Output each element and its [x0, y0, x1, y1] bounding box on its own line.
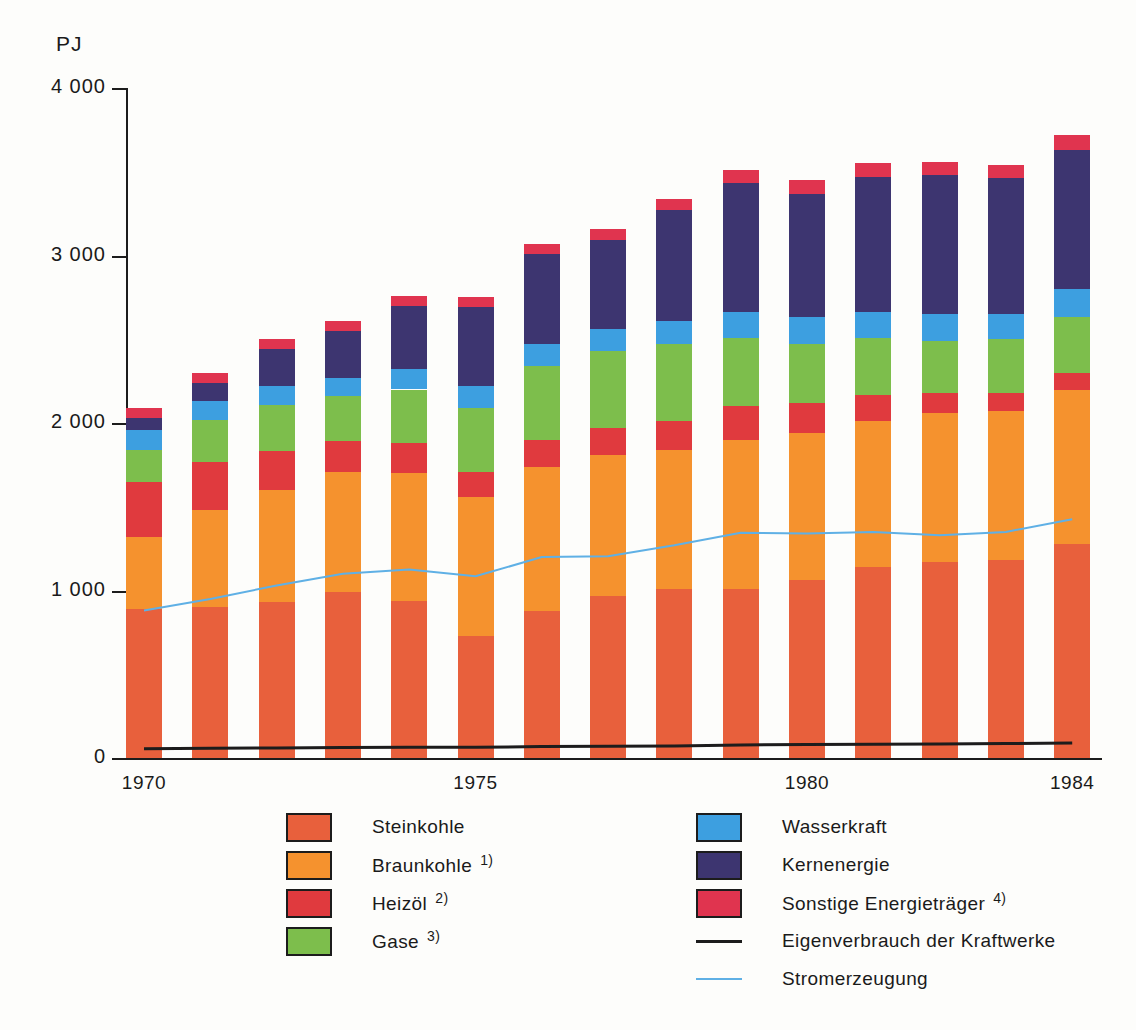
legend-item[interactable]: Eigenverbrauch der Kraftwerke — [696, 922, 1056, 960]
bar-segment — [458, 408, 494, 472]
bar-segment — [656, 210, 692, 321]
bar-segment — [789, 180, 825, 193]
bar-column — [524, 88, 560, 758]
bar-segment — [656, 589, 692, 758]
bar-column — [855, 88, 891, 758]
legend-label: Kernenergie — [782, 854, 890, 876]
bar-segment — [458, 307, 494, 386]
bar-column — [126, 88, 162, 758]
legend-color-swatch — [696, 813, 742, 842]
bar-segment — [325, 321, 361, 331]
bar-segment — [656, 450, 692, 589]
bar-segment — [988, 393, 1024, 411]
bar-segment — [458, 297, 494, 307]
bar-segment — [789, 194, 825, 318]
bar-column — [391, 88, 427, 758]
bar-segment — [259, 602, 295, 758]
bar-segment — [524, 611, 560, 758]
bar-segment — [126, 430, 162, 450]
bar-segment — [922, 393, 958, 413]
legend-color-swatch — [286, 813, 332, 842]
bar-segment — [524, 467, 560, 611]
legend-item[interactable]: Heizöl2) — [286, 884, 493, 922]
bar-segment — [723, 312, 759, 337]
bar-segment — [723, 406, 759, 440]
bar-segment — [590, 351, 626, 428]
bar-segment — [656, 199, 692, 211]
bar-segment — [922, 314, 958, 341]
bar-segment — [922, 341, 958, 393]
bar-segment — [855, 567, 891, 758]
bar-segment — [1054, 135, 1090, 150]
bar-segment — [458, 497, 494, 636]
legend-footnote-marker: 1) — [480, 852, 493, 868]
bar-segment — [391, 390, 427, 444]
y-tick-label: 3 000 — [20, 243, 106, 266]
bar-segment — [524, 440, 560, 467]
bar-segment — [855, 163, 891, 176]
bar-segment — [325, 472, 361, 593]
bar-segment — [855, 312, 891, 337]
bar-segment — [325, 396, 361, 441]
bar-segment — [1054, 373, 1090, 390]
bar-column — [259, 88, 295, 758]
bar-segment — [1054, 317, 1090, 372]
bar-segment — [325, 331, 361, 378]
legend-item[interactable]: Wasserkraft — [696, 808, 1056, 846]
bar-column — [458, 88, 494, 758]
bar-segment — [789, 317, 825, 344]
legend-item[interactable]: Kernenergie — [696, 846, 1056, 884]
bar-segment — [458, 472, 494, 497]
x-tick-label: 1975 — [431, 772, 521, 794]
bar-segment — [988, 560, 1024, 758]
bar-segment — [524, 244, 560, 254]
bar-segment — [855, 421, 891, 567]
bar-segment — [458, 636, 494, 758]
bar-segment — [988, 314, 1024, 339]
bar-segment — [325, 378, 361, 396]
legend-item[interactable]: Braunkohle1) — [286, 846, 493, 884]
bar-segment — [391, 369, 427, 389]
bar-segment — [656, 344, 692, 421]
legend-footnote-marker: 4) — [993, 890, 1006, 906]
bar-segment — [391, 443, 427, 473]
legend-footnote-marker: 2) — [435, 890, 448, 906]
legend-color-swatch — [286, 927, 332, 956]
bar-segment — [259, 386, 295, 404]
bar-segment — [922, 413, 958, 562]
legend-label: Gase3) — [372, 928, 440, 953]
bar-column — [590, 88, 626, 758]
bar-segment — [192, 462, 228, 511]
chart-container: PJ 01 0002 0003 0004 000 197019751980198… — [0, 0, 1136, 1030]
bar-segment — [192, 607, 228, 758]
bar-segment — [988, 411, 1024, 560]
legend-label: Braunkohle1) — [372, 852, 493, 877]
bar-segment — [723, 183, 759, 312]
bar-segment — [126, 450, 162, 482]
legend-line-marker — [696, 978, 742, 980]
bar-segment — [855, 338, 891, 395]
bar-segment — [988, 165, 1024, 178]
legend-item[interactable]: Gase3) — [286, 922, 493, 960]
bar-segment — [789, 403, 825, 433]
bar-segment — [789, 344, 825, 403]
y-tick-label: 4 000 — [20, 75, 106, 98]
legend-item[interactable]: Steinkohle — [286, 808, 493, 846]
y-tick-label: 0 — [20, 745, 106, 768]
y-tick-label: 2 000 — [20, 410, 106, 433]
bar-segment — [1054, 390, 1090, 544]
legend-item[interactable]: Sonstige Energieträger4) — [696, 884, 1056, 922]
y-tick-label: 1 000 — [20, 578, 106, 601]
bar-column — [1054, 88, 1090, 758]
legend-label: Eigenverbrauch der Kraftwerke — [782, 930, 1056, 952]
bar-segment — [259, 490, 295, 602]
bar-segment — [524, 366, 560, 440]
legend-color-swatch — [286, 889, 332, 918]
bar-segment — [126, 537, 162, 609]
bar-segment — [590, 229, 626, 241]
bar-segment — [855, 177, 891, 313]
bar-segment — [458, 386, 494, 408]
legend-item[interactable]: Stromerzeugung — [696, 960, 1056, 998]
legend-left-column: SteinkohleBraunkohle1)Heizöl2)Gase3) — [286, 808, 493, 960]
bar-column — [723, 88, 759, 758]
